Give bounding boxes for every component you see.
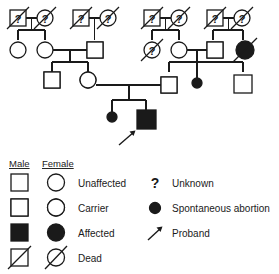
square-outline bbox=[207, 42, 223, 58]
circle-symbol bbox=[171, 42, 187, 58]
legend-row-affected: Affected bbox=[11, 224, 115, 241]
legend-header-female: Female bbox=[42, 158, 74, 169]
square-symbol bbox=[234, 75, 252, 93]
legend-filled-square-icon bbox=[11, 224, 28, 241]
square-outline bbox=[87, 42, 103, 58]
generation-2-symbols: ? bbox=[10, 38, 257, 62]
individual-I-7[interactable]: ? bbox=[204, 7, 226, 29]
individual-II-2[interactable] bbox=[37, 42, 53, 58]
legend-filled-circle-icon bbox=[48, 224, 65, 241]
legend-half-circle-outline bbox=[48, 199, 65, 216]
legend-row-dead: Dead bbox=[8, 246, 102, 269]
individual-II-6[interactable] bbox=[207, 42, 223, 58]
circle-outline bbox=[80, 72, 96, 88]
individual-I-1[interactable]: ? bbox=[7, 7, 29, 29]
legend-label-spontaneous-abortion: Spontaneous abortion bbox=[172, 203, 270, 214]
legend-open-square-icon bbox=[11, 174, 28, 191]
individual-III-3[interactable] bbox=[161, 77, 177, 93]
individual-II-4[interactable]: ? bbox=[141, 39, 163, 61]
legend-label-dead: Dead bbox=[78, 253, 102, 264]
individual-I-5[interactable]: ? bbox=[141, 7, 163, 29]
square-outline bbox=[161, 77, 177, 93]
legend-label-carrier: Carrier bbox=[78, 203, 109, 214]
legend-row-carrier: Carrier bbox=[11, 199, 109, 216]
pedigree-canvas: ? ? ? ? ? bbox=[0, 0, 279, 274]
individual-I-8[interactable]: ? bbox=[231, 7, 253, 29]
individual-II-7[interactable] bbox=[233, 38, 257, 62]
square-symbol bbox=[137, 110, 156, 129]
legend-half-square-outline bbox=[11, 199, 28, 216]
generation-3-symbols bbox=[44, 72, 252, 93]
individual-III-1[interactable] bbox=[44, 72, 60, 88]
legend-row-unknown: ? Unknown bbox=[151, 175, 214, 191]
individual-I-6[interactable]: ? bbox=[168, 7, 190, 29]
individual-II-1[interactable] bbox=[10, 42, 26, 58]
legend-question-mark-icon: ? bbox=[151, 175, 160, 191]
legend: Male Female Unaffected Carrier bbox=[8, 158, 270, 269]
circle-symbol bbox=[10, 42, 26, 58]
legend-open-circle-icon bbox=[48, 174, 65, 191]
generation-4-symbols bbox=[107, 110, 156, 145]
individual-I-4[interactable]: ? bbox=[97, 7, 119, 29]
individual-III-2[interactable] bbox=[80, 72, 96, 88]
circle-symbol bbox=[37, 42, 53, 58]
pedigree-figure: ? ? ? ? ? bbox=[0, 0, 279, 274]
generation-3-connectors bbox=[96, 85, 161, 112]
individual-II-5[interactable] bbox=[171, 42, 187, 58]
individual-I-3[interactable]: ? bbox=[70, 7, 92, 29]
individual-III-4[interactable] bbox=[192, 78, 202, 88]
legend-label-unknown: Unknown bbox=[172, 178, 214, 189]
individual-III-5[interactable] bbox=[234, 75, 252, 93]
legend-row-spontaneous-abortion: Spontaneous abortion bbox=[150, 203, 270, 214]
legend-small-filled-circle-icon bbox=[150, 203, 161, 214]
spontaneous-abortion-symbol bbox=[107, 112, 117, 122]
legend-label-proband: Proband bbox=[172, 228, 210, 239]
legend-header-male: Male bbox=[9, 158, 30, 169]
individual-II-3[interactable] bbox=[87, 42, 103, 58]
generation-1-symbols: ? ? ? ? ? bbox=[7, 7, 253, 29]
legend-row-proband: Proband bbox=[148, 227, 210, 241]
spontaneous-abortion-symbol bbox=[192, 78, 202, 88]
proband-arrow-indicator bbox=[119, 131, 136, 146]
individual-IV-1[interactable] bbox=[107, 112, 117, 122]
legend-label-affected: Affected bbox=[78, 228, 115, 239]
legend-row-unaffected: Unaffected bbox=[11, 174, 126, 191]
legend-label-unaffected: Unaffected bbox=[78, 178, 126, 189]
individual-IV-2[interactable] bbox=[137, 110, 156, 129]
individual-I-2[interactable]: ? bbox=[34, 7, 56, 29]
square-outline bbox=[44, 72, 60, 88]
